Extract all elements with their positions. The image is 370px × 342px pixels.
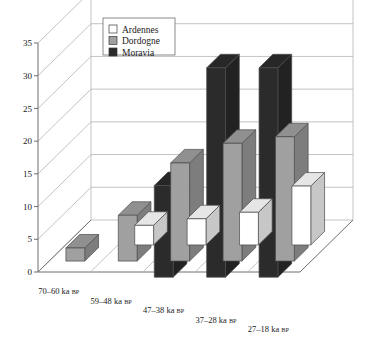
chart-legend: ArdennesDordogneMoravia — [103, 18, 175, 58]
legend-swatch-ardennes — [109, 25, 117, 33]
y-tick-label-35: 35 — [23, 38, 33, 48]
bar-dordogne-0 — [66, 234, 99, 261]
y-tick-label-0: 0 — [28, 267, 33, 277]
bar-face — [292, 186, 311, 245]
bar-face — [66, 248, 85, 261]
legend-swatch-moravia — [109, 48, 117, 56]
legend-swatch-dordogne — [109, 37, 117, 45]
bar-face — [240, 212, 259, 245]
x-category-label-3: 37–28 ka BP — [195, 315, 237, 325]
x-axis-category-labels: 70–60 ka BP59–48 ka BP47–38 ka BP37–28 k… — [38, 286, 289, 334]
bar-face — [207, 68, 226, 277]
y-tick-label-30: 30 — [23, 71, 33, 81]
grid-line-35 — [38, 0, 353, 43]
bar-ardennes-4 — [292, 173, 325, 245]
bar-face — [135, 225, 154, 245]
bar-face — [276, 137, 295, 261]
bar-face — [259, 68, 278, 277]
y-axis-ticks: 05101520253035 — [23, 38, 38, 277]
x-category-label-2: 47–38 ka BP — [143, 305, 185, 315]
grid-line-25 — [38, 56, 353, 108]
x-category-label-4: 27–18 ka BP — [248, 324, 290, 334]
y-tick-label-10: 10 — [23, 202, 33, 212]
bar-face — [118, 215, 137, 261]
x-category-label-0: 70–60 ka BP — [38, 286, 80, 296]
bar-face — [223, 143, 242, 261]
legend-label-moravia: Moravia — [122, 48, 155, 58]
y-tick-label-20: 20 — [23, 136, 33, 146]
y-tick-label-15: 15 — [23, 169, 33, 179]
bar-face — [171, 163, 190, 261]
chart-container: 05101520253035 70–60 ka BP59–48 ka BP47–… — [0, 0, 370, 342]
grid-line-30 — [38, 24, 353, 76]
y-tick-label-25: 25 — [23, 104, 33, 114]
legend-label-ardennes: Ardennes — [122, 25, 159, 35]
y-tick-label-5: 5 — [28, 234, 33, 244]
legend-label-dordogne: Dordogne — [122, 36, 160, 46]
bar-face — [187, 219, 206, 245]
bars-layer — [66, 54, 325, 277]
x-category-label-1: 59–48 ka BP — [91, 296, 133, 306]
bar-chart-3d: 05101520253035 70–60 ka BP59–48 ka BP47–… — [0, 0, 370, 342]
